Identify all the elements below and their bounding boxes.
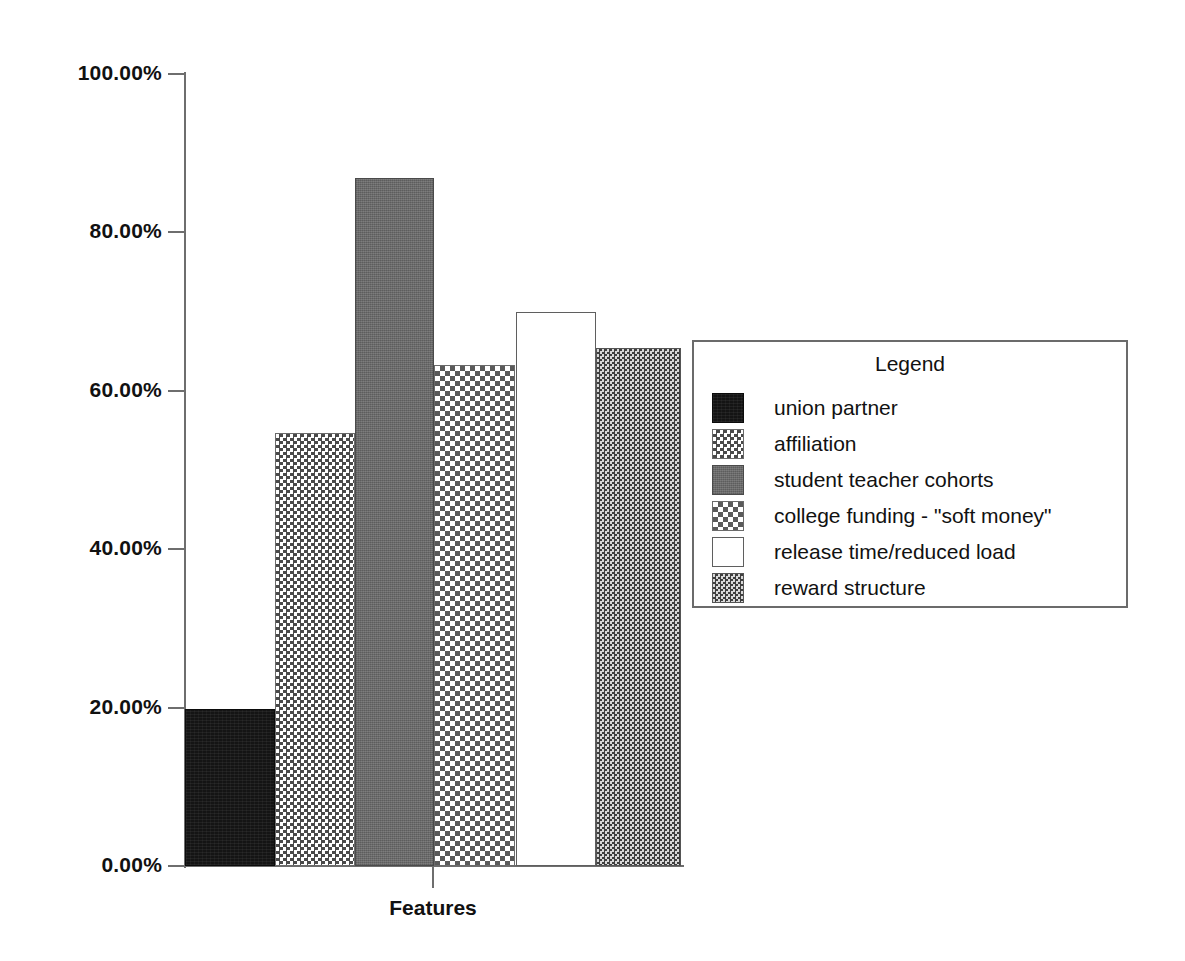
bar-student-teacher-cohorts [355,178,434,866]
legend-item: release time/reduced load [712,534,1116,570]
legend-swatch-checker-medium [712,429,744,459]
legend-item-label: union partner [774,396,898,420]
legend-item-label: reward structure [774,576,926,600]
legend-swatch-white [712,537,744,567]
legend-item: affiliation [712,426,1116,462]
legend-item: college funding - "soft money" [712,498,1116,534]
legend-swatch-solid-gray [712,465,744,495]
y-axis-tick [168,865,184,867]
y-axis-tick-label: 40.00% [90,536,162,560]
y-axis-tick [168,390,184,392]
legend-title: Legend [694,352,1126,376]
legend-item: reward structure [712,570,1116,606]
legend-swatch-checker-fine [712,573,744,603]
legend-swatch-checker-open [712,501,744,531]
legend-item-label: release time/reduced load [774,540,1016,564]
bar-union-partner [185,709,275,866]
bar-college-funding-soft-money [434,365,515,866]
y-axis-tick-label: 0.00% [101,853,162,877]
bar-reward-structure [596,348,681,866]
y-axis-tick-label: 80.00% [90,219,162,243]
y-axis-tick [168,707,184,709]
legend-item: union partner [712,390,1116,426]
x-axis-title: Features [185,896,681,920]
y-axis-tick-label: 60.00% [90,378,162,402]
bar-chart: % of PDSs 100.00%80.00%60.00%40.00%20.00… [0,0,1185,961]
y-axis-tick [168,548,184,550]
x-axis-center-tick [432,866,434,888]
y-axis-tick-label: 100.00% [78,61,162,85]
legend-box: Legend union partneraffiliationstudent t… [692,340,1128,608]
legend-item-label: college funding - "soft money" [774,504,1052,528]
legend-item-label: affiliation [774,432,857,456]
plot-area [185,74,681,866]
legend-item-list: union partneraffiliationstudent teacher … [712,390,1116,606]
y-axis-tick [168,73,184,75]
legend-item: student teacher cohorts [712,462,1116,498]
bar-affiliation [275,433,355,866]
bar-release-time-reduced-load [516,312,596,866]
legend-item-label: student teacher cohorts [774,468,993,492]
y-axis-tick-label: 20.00% [90,695,162,719]
legend-swatch-solid-black [712,393,744,423]
y-axis-tick [168,231,184,233]
